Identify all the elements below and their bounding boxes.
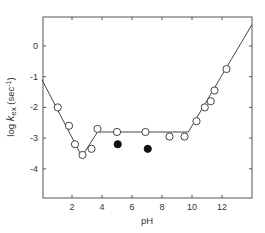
- y-tick-label: -4: [30, 164, 38, 174]
- open-circle-point: [88, 145, 95, 152]
- open-circle-point: [181, 133, 188, 140]
- y-tick-label: -1: [30, 72, 38, 82]
- plot-frame: [43, 17, 252, 198]
- open-circle-point: [223, 65, 230, 72]
- open-circle-point: [79, 151, 86, 158]
- y-tick-label: 0: [33, 41, 38, 51]
- open-circle-point: [71, 141, 78, 148]
- fit-line: [42, 25, 252, 157]
- open-circle-point: [193, 118, 200, 125]
- open-circle-point: [65, 122, 72, 129]
- axis-ticks: [43, 17, 252, 198]
- open-circle-point: [201, 104, 208, 111]
- x-tick-label: 6: [129, 202, 134, 212]
- y-tick-label: -2: [30, 102, 38, 112]
- open-circle-point: [207, 98, 214, 105]
- chart: 24681012 0-1-2-3-4 pH log kex (sec-1): [0, 0, 265, 233]
- filled-circle-point: [114, 141, 121, 148]
- x-tick-label: 10: [187, 202, 197, 212]
- filled-circle-point: [144, 145, 151, 152]
- x-tick-label: 8: [159, 202, 164, 212]
- x-tick-labels: 24681012: [69, 202, 227, 212]
- open-circle-point: [94, 125, 101, 132]
- open-circle-point: [113, 128, 120, 135]
- data-points: [54, 65, 230, 158]
- y-tick-labels: 0-1-2-3-4: [30, 41, 38, 174]
- x-tick-label: 12: [217, 202, 227, 212]
- x-tick-label: 2: [69, 202, 74, 212]
- y-tick-label: -3: [30, 133, 38, 143]
- open-circle-point: [54, 104, 61, 111]
- open-circle-point: [166, 133, 173, 140]
- x-axis-title: pH: [141, 215, 153, 226]
- open-circle-point: [142, 128, 149, 135]
- y-axis-title: log kex (sec-1): [4, 77, 18, 136]
- open-circle-point: [211, 87, 218, 94]
- x-tick-label: 4: [99, 202, 104, 212]
